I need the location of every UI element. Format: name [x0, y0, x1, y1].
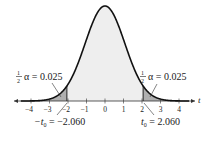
- half-denominator: 2: [17, 78, 20, 84]
- axis-arrow-left-icon: [14, 99, 18, 103]
- x-tick-label: 1: [122, 105, 126, 114]
- x-tick-label: 2: [140, 105, 144, 114]
- half-numerator: 1: [17, 70, 20, 76]
- left-alpha-label: α = 0.025: [24, 71, 62, 82]
- x-tick-label: −2: [62, 105, 70, 114]
- half-denominator: 2: [141, 78, 144, 84]
- plot-area: [14, 6, 195, 103]
- x-tick-label: 0: [103, 105, 107, 114]
- left-alpha-annotation: 1 2 α = 0.025: [16, 70, 62, 97]
- left-critical-value-label: −t0 = −2.060: [34, 116, 85, 128]
- right-alpha-leader: [150, 84, 157, 97]
- left-alpha-leader: [52, 83, 61, 97]
- x-axis-label: t: [198, 95, 201, 105]
- x-tick-label: −4: [25, 105, 33, 114]
- right-alpha-label: α = 0.025: [148, 71, 186, 82]
- x-tick-label: −3: [44, 105, 52, 114]
- x-tick-label: −1: [81, 105, 89, 114]
- x-tick-label: 3: [159, 105, 163, 114]
- x-tick-label: 4: [177, 105, 181, 114]
- axis-arrow-right-icon: [191, 99, 195, 103]
- acceptance-region: [67, 6, 143, 101]
- right-critical-value-label: t0 = 2.060: [141, 116, 180, 128]
- t-distribution-chart: −4−3−2−101234 t 1 2 α = 0.025 1 2 α = 0.…: [0, 0, 205, 143]
- half-numerator: 1: [141, 70, 144, 76]
- right-t0-leader: [144, 103, 154, 115]
